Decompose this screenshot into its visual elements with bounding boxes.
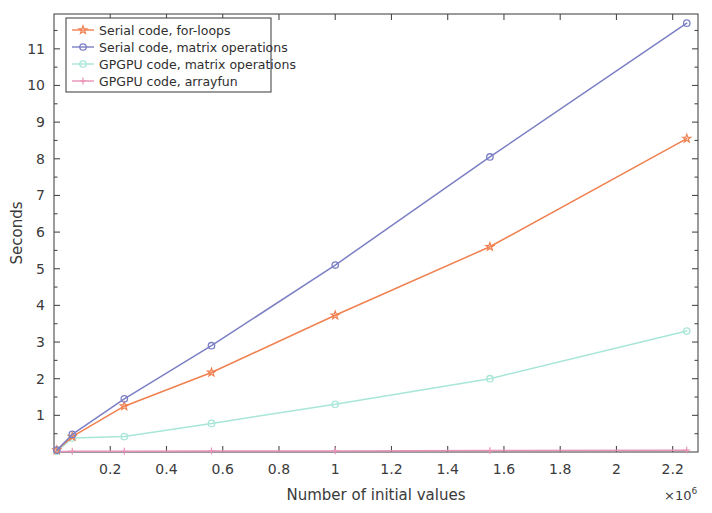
chart-figure: 0.20.40.60.811.21.41.61.822.212345678910… (0, 0, 712, 513)
axis-labels: 0.20.40.60.811.21.41.61.822.212345678910… (8, 41, 697, 504)
legend-item-1[interactable]: Serial code, matrix operations (72, 40, 288, 55)
data-point-marker (486, 447, 493, 454)
series-line (57, 139, 687, 451)
y-tick-label: 8 (36, 151, 45, 167)
series-0 (53, 134, 691, 453)
series-line (57, 331, 687, 451)
y-tick-label: 1 (36, 407, 45, 423)
legend-label: GPGPU code, matrix operations (99, 57, 296, 72)
line-chart: 0.20.40.60.811.21.41.61.822.212345678910… (0, 0, 712, 513)
data-point-marker (332, 448, 339, 455)
y-tick-label: 2 (36, 371, 45, 387)
y-axis-title: Seconds (8, 201, 26, 264)
x-tick-label: 0.6 (212, 461, 234, 477)
data-point-marker (69, 448, 76, 455)
y-tick-label: 7 (36, 187, 45, 203)
series-2 (54, 328, 690, 455)
legend-label: Serial code, for-loops (99, 23, 231, 38)
legend-label: Serial code, matrix operations (99, 40, 288, 55)
x-tick-label: 1.6 (493, 461, 515, 477)
x-axis-multiplier: ×106 (664, 486, 697, 503)
x-tick-label: 1 (331, 461, 340, 477)
y-tick-label: 3 (36, 334, 45, 350)
y-tick-label: 5 (36, 261, 45, 277)
data-point-marker (121, 448, 128, 455)
x-tick-label: 0.2 (99, 461, 121, 477)
x-tick-label: 1.4 (437, 461, 459, 477)
data-point-marker (208, 448, 215, 455)
y-tick-label: 9 (36, 114, 45, 130)
y-tick-label: 6 (36, 224, 45, 240)
y-tick-label: 4 (36, 297, 45, 313)
x-tick-label: 0.4 (155, 461, 177, 477)
x-tick-label: 1.8 (549, 461, 571, 477)
x-tick-label: 1.2 (380, 461, 402, 477)
legend-item-2[interactable]: GPGPU code, matrix operations (72, 57, 296, 72)
series-line (57, 450, 687, 451)
x-axis-title: Number of initial values (286, 486, 465, 504)
series-3 (53, 447, 690, 455)
y-tick-label: 10 (27, 77, 45, 93)
x-tick-label: 2 (612, 461, 621, 477)
legend-label: GPGPU code, arrayfun (99, 74, 238, 89)
chart-legend[interactable]: Serial code, for-loopsSerial code, matri… (66, 18, 296, 92)
y-tick-label: 11 (27, 41, 45, 57)
x-tick-label: 0.8 (268, 461, 290, 477)
x-tick-label: 2.2 (662, 461, 684, 477)
